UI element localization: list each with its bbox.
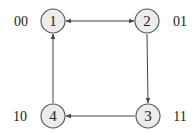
node-4: 4 <box>41 104 65 128</box>
edge-2-3 <box>147 34 148 103</box>
node-3-label: 3 <box>144 108 152 124</box>
node-2: 2 <box>135 9 159 33</box>
state-diagram: 1 00 2 01 3 11 4 10 <box>0 0 195 134</box>
node-3-code: 11 <box>173 109 186 124</box>
node-1-label: 1 <box>49 13 57 29</box>
node-1: 1 <box>41 9 65 33</box>
node-2-label: 2 <box>143 13 151 29</box>
node-4-label: 4 <box>49 108 57 124</box>
node-1-code: 00 <box>14 14 28 29</box>
node-4-code: 10 <box>13 109 27 124</box>
node-3: 3 <box>136 104 160 128</box>
node-2-code: 01 <box>173 14 187 29</box>
